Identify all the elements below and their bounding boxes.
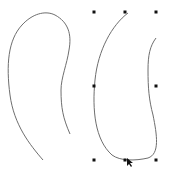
resize-handle[interactable] <box>93 159 96 162</box>
drawing-canvas[interactable] <box>0 0 169 172</box>
resize-handle[interactable] <box>155 11 158 14</box>
resize-handle[interactable] <box>124 11 127 14</box>
canvas-background <box>0 0 169 172</box>
resize-handle[interactable] <box>124 159 127 162</box>
resize-handle[interactable] <box>155 159 158 162</box>
resize-handle[interactable] <box>93 85 96 88</box>
resize-handle[interactable] <box>155 85 158 88</box>
resize-handle[interactable] <box>93 11 96 14</box>
